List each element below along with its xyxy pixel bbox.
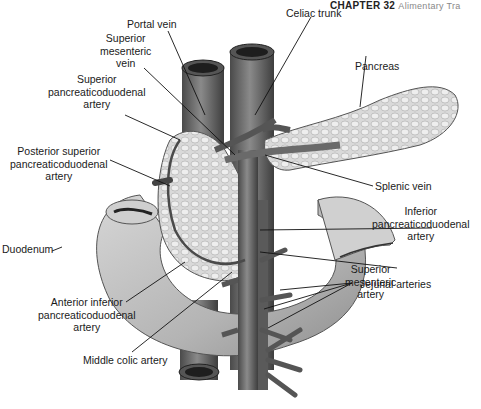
label-superior-mesenteric-vein: Superior mesenteric vein xyxy=(100,32,151,70)
label-middle-colic-artery: Middle colic artery xyxy=(83,354,168,367)
label-posterior-superior-pancreaticoduodenal-artery: Posterior superior pancreaticoduodenal a… xyxy=(10,145,108,183)
label-jejunal-arteries: Jejunal arteries xyxy=(360,278,431,291)
label-superior-pancreaticoduodenal-artery: Superior pancreaticoduodenal artery xyxy=(48,73,146,111)
label-inferior-pancreaticoduodenal-artery: Inferior pancreaticoduodenal artery xyxy=(372,205,470,243)
label-duodenum: Duodenum xyxy=(2,243,53,256)
label-anterior-inferior-pancreaticoduodenal-artery: Anterior inferior pancreaticoduodenal ar… xyxy=(38,296,136,334)
label-portal-vein: Portal vein xyxy=(127,18,177,31)
label-pancreas: Pancreas xyxy=(355,60,399,73)
superior-mesenteric-vessels xyxy=(238,150,258,390)
label-splenic-vein: Splenic vein xyxy=(375,180,432,193)
label-celiac-trunk: Celiac trunk xyxy=(286,7,341,20)
